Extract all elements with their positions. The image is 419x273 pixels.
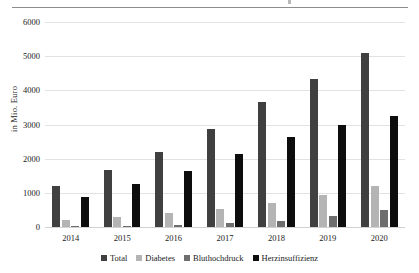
bar-group: 2020 [354,22,405,227]
bar [226,223,234,227]
chart-figure: in Mio. Euro 0100020003000400050006000 2… [0,0,419,273]
bar-group: 2017 [199,22,250,227]
legend-label: Total [110,254,127,263]
bar [287,137,295,227]
legend-item[interactable]: Herzinsuffizienz [253,254,318,263]
y-axis-tick-label: 0 [36,223,40,232]
legend-label: Herzinsuffizienz [262,254,318,263]
legend-swatch-icon [184,255,190,261]
plot-area: 0100020003000400050006000 20142015201620… [45,22,405,227]
bar [380,210,388,227]
legend-item[interactable]: Bluthochdruck [184,254,244,263]
bar [52,186,60,227]
bar [184,171,192,227]
bar [104,170,112,227]
legend-swatch-icon [253,255,259,261]
x-axis-tick-label: 2020 [371,234,388,243]
bar [361,53,369,227]
bar [371,186,379,227]
bar [319,195,327,227]
legend-swatch-icon [101,255,107,261]
bar [310,79,318,227]
bar-groups: 2014201520162017201820192020 [45,22,405,227]
bar-group: 2019 [302,22,353,227]
x-axis-tick-label: 2014 [62,234,79,243]
y-axis-tick-label: 3000 [23,120,40,129]
bar [155,152,163,227]
bar [113,217,121,227]
bar [338,125,346,227]
bar [216,209,224,227]
bar-group: 2015 [96,22,147,227]
bar [207,129,215,227]
bar [62,220,70,227]
y-axis-tick-label: 2000 [23,154,40,163]
bar [329,216,337,227]
bar [123,226,131,227]
legend-item[interactable]: Total [101,254,127,263]
x-axis-tick-label: 2018 [268,234,285,243]
bar [235,154,243,227]
bar [174,225,182,227]
y-axis-tick-label: 6000 [23,18,40,27]
legend-item[interactable]: Diabetes [136,254,175,263]
gridline [45,227,405,228]
bar-group: 2014 [45,22,96,227]
bar [258,102,266,227]
bar [81,197,89,227]
x-axis-tick-label: 2017 [216,234,233,243]
chart-legend: TotalDiabetesBluthochdruckHerzinsuffizie… [0,254,419,263]
bar [132,184,140,227]
bar [277,221,285,227]
y-axis-tick-label: 5000 [23,52,40,61]
bar [71,226,79,227]
bar-group: 2018 [251,22,302,227]
y-axis-tick-label: 1000 [23,189,40,198]
y-axis-tick-label: 4000 [23,86,40,95]
bar [165,213,173,227]
page-top-rule [12,7,408,8]
bar-group: 2016 [148,22,199,227]
page-top-artifact [288,0,291,4]
legend-label: Bluthochdruck [193,254,244,263]
y-axis-title: in Mio. Euro [9,86,19,132]
x-axis-tick-label: 2019 [319,234,336,243]
bar [268,203,276,227]
bar [390,116,398,227]
x-axis-tick-label: 2016 [165,234,182,243]
legend-label: Diabetes [145,254,175,263]
x-axis-tick-label: 2015 [114,234,131,243]
legend-swatch-icon [136,255,142,261]
